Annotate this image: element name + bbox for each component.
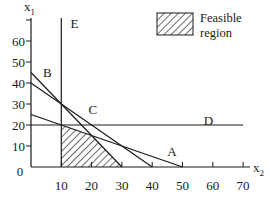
x-tick-label: 30 bbox=[115, 178, 128, 193]
y-tick-label: 50 bbox=[12, 55, 25, 70]
origin-label: 0 bbox=[17, 164, 24, 179]
x-tick-label: 20 bbox=[85, 178, 98, 193]
legend: Feasibleregion bbox=[157, 11, 242, 40]
line-label-d: D bbox=[204, 113, 213, 128]
y-tick-label: 30 bbox=[12, 97, 25, 112]
y-tick-label: 60 bbox=[12, 34, 25, 49]
line-label-a: A bbox=[167, 144, 177, 159]
feasible-region bbox=[61, 125, 122, 167]
y-axis-title: x1 bbox=[24, 0, 35, 17]
x-tick-label: 50 bbox=[176, 178, 189, 193]
line-label-e: E bbox=[70, 16, 78, 31]
feasible-region-chart: 102030405060701020304050600x2x1 ABCDE Fe… bbox=[0, 0, 270, 207]
legend-label-line2: region bbox=[200, 26, 233, 40]
x-tick-label: 60 bbox=[206, 178, 219, 193]
y-tick-label: 20 bbox=[12, 118, 25, 133]
x-axis-title: x2 bbox=[253, 160, 264, 178]
y-tick-label: 10 bbox=[12, 139, 25, 154]
legend-swatch bbox=[157, 13, 193, 35]
feasible-region-polygon bbox=[61, 125, 122, 167]
x-tick-label: 40 bbox=[146, 178, 159, 193]
legend-label-line1: Feasible bbox=[200, 11, 242, 25]
line-label-c: C bbox=[89, 102, 98, 117]
line-label-b: B bbox=[43, 65, 52, 80]
y-tick-label: 40 bbox=[12, 76, 25, 91]
x-tick-label: 70 bbox=[237, 178, 250, 193]
x-tick-label: 10 bbox=[55, 178, 68, 193]
